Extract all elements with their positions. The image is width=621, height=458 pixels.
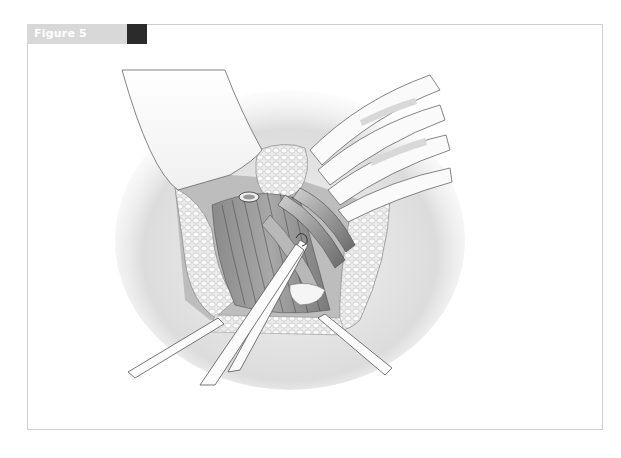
figure-marker <box>127 24 147 44</box>
surgical-illustration <box>100 60 500 400</box>
figure-header: Figure 5 <box>27 24 147 44</box>
figure-label: Figure 5 <box>27 24 127 44</box>
